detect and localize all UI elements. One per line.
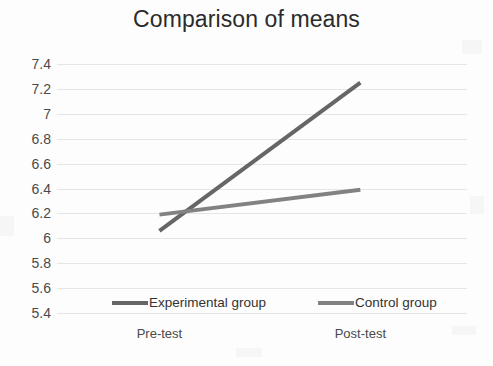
series-line — [159, 190, 360, 215]
legend-color-swatch — [112, 301, 148, 305]
x-axis: Pre-testPost-test — [57, 326, 467, 346]
chart-container: Comparison of means 7.47.276.86.66.46.26… — [0, 0, 493, 366]
scan-artifact — [470, 196, 484, 214]
y-axis-tick-label: 6.2 — [7, 206, 51, 220]
x-axis-tick-label: Post-test — [335, 326, 386, 341]
scan-artifact — [236, 348, 262, 357]
legend-color-swatch — [318, 301, 354, 305]
x-axis-tick-label: Pre-test — [137, 326, 183, 341]
y-axis-tick-label: 6.6 — [7, 157, 51, 171]
plot-area — [57, 64, 467, 313]
legend-label: Control group — [355, 294, 437, 312]
chart-title: Comparison of means — [0, 6, 493, 33]
y-axis-tick-label: 5.8 — [7, 256, 51, 270]
legend-entry[interactable]: Control group — [318, 294, 437, 312]
legend-entry[interactable]: Experimental group — [112, 294, 266, 312]
legend-label: Experimental group — [149, 294, 266, 312]
y-axis-tick-label: 7 — [7, 107, 51, 121]
series-line — [159, 83, 360, 231]
y-axis-tick-label: 5.4 — [7, 306, 51, 320]
y-axis: 7.47.276.86.66.46.265.85.65.4 — [0, 64, 51, 313]
y-axis-tick-label: 5.6 — [7, 281, 51, 295]
y-axis-tick-label: 6.8 — [7, 132, 51, 146]
y-axis-tick-label: 6 — [7, 231, 51, 245]
chart-legend: Experimental groupControl group — [57, 294, 467, 314]
series-layer — [57, 64, 467, 313]
y-axis-tick-label: 7.4 — [7, 57, 51, 71]
y-axis-tick-label: 7.2 — [7, 82, 51, 96]
scan-artifact — [462, 40, 482, 54]
y-axis-tick-label: 6.4 — [7, 182, 51, 196]
